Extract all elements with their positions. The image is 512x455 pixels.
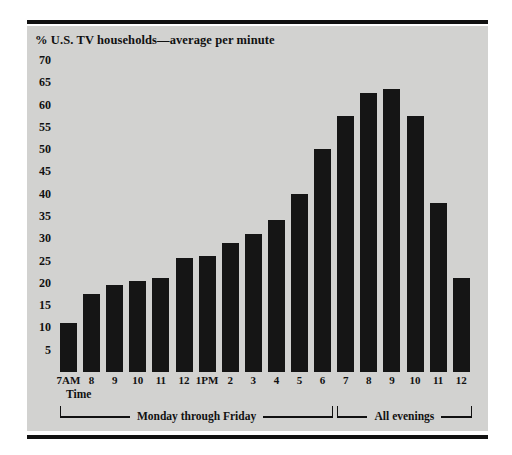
x-axis-tick-label: 7AM [57, 374, 81, 386]
bar [383, 89, 400, 372]
x-axis-tick-label: 8 [366, 374, 372, 386]
x-axis-tick-label: 8 [89, 374, 95, 386]
bracket-line-right [441, 416, 470, 418]
x-axis-tick-label: 9 [389, 374, 395, 386]
x-axis-tick-label: 11 [433, 374, 443, 386]
chart-figure: % U.S. TV households—average per minute … [0, 0, 512, 455]
x-axis-tick-label: 11 [156, 374, 166, 386]
bar [199, 256, 216, 372]
bar [245, 234, 262, 372]
bar [268, 220, 285, 372]
top-rule [27, 20, 488, 24]
y-axis-tick-label: 25 [27, 253, 51, 268]
bar [337, 116, 354, 372]
bottom-rule [27, 435, 488, 439]
bracket-line-left [61, 416, 130, 418]
bracket-line-left [338, 416, 367, 418]
x-axis-tick-label: 10 [410, 374, 421, 386]
bar [291, 194, 308, 372]
y-axis-tick-label: 50 [27, 142, 51, 157]
chart-title: % U.S. TV households—average per minute [35, 33, 275, 48]
bar [106, 285, 123, 372]
y-axis-tick-label: 60 [27, 97, 51, 112]
group-bracket-label: All evenings [375, 409, 435, 423]
bar [83, 294, 100, 372]
x-axis-tick-label: 9 [112, 374, 118, 386]
x-axis-tick-label: 4 [274, 374, 280, 386]
x-axis-tick-label: 3 [251, 374, 257, 386]
y-axis-tick-label: 30 [27, 231, 51, 246]
x-axis-tick-label: 12 [179, 374, 190, 386]
bar [176, 258, 193, 372]
x-axis-tick-label: 2 [227, 374, 233, 386]
y-axis-tick-label: 55 [27, 119, 51, 134]
x-axis-tick-label: 6 [320, 374, 326, 386]
bar [407, 116, 424, 372]
y-axis-tick-label: 70 [27, 53, 51, 68]
bar [453, 278, 470, 372]
x-axis-tick-label: 1PM [196, 374, 219, 386]
y-axis-tick-label: 10 [27, 320, 51, 335]
bar [360, 93, 377, 372]
bar [222, 243, 239, 372]
y-axis-tick-label: 35 [27, 209, 51, 224]
bar [152, 278, 169, 372]
y-axis-tick-label: 20 [27, 275, 51, 290]
y-axis-tick-label: 45 [27, 164, 51, 179]
plot-area: 706560555045403530252015105 [58, 60, 472, 372]
bar [129, 281, 146, 372]
y-axis-tick-label: 40 [27, 186, 51, 201]
x-axis-tick-label: 10 [132, 374, 143, 386]
bar [314, 149, 331, 372]
y-axis-tick-label: 5 [27, 342, 51, 357]
y-axis-tick-label: 15 [27, 298, 51, 313]
group-bracket-label: Monday through Friday [137, 409, 256, 423]
bar [430, 203, 447, 372]
group-bracket: Monday through Friday [60, 406, 333, 418]
bracket-line-right [263, 416, 332, 418]
x-axis-tick-label: 7 [343, 374, 349, 386]
x-axis-label: Time [66, 388, 91, 400]
group-bracket: All evenings [337, 406, 472, 418]
bar [60, 323, 77, 372]
y-axis-tick-label: 65 [27, 75, 51, 90]
x-axis-tick-label: 12 [456, 374, 467, 386]
x-axis-tick-label: 5 [297, 374, 303, 386]
